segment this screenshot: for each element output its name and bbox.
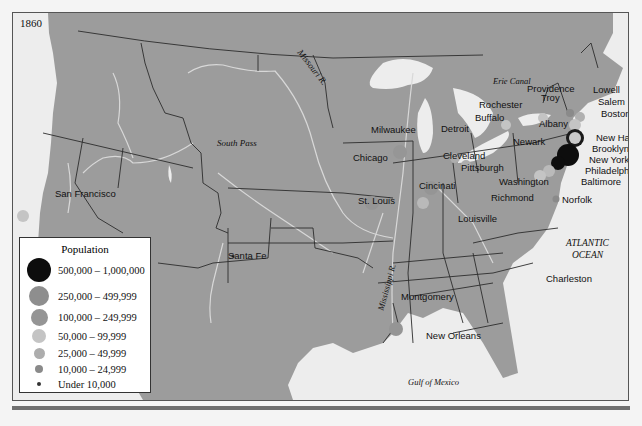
legend-row-250k-500k: 250,000 – 499,999: [20, 286, 150, 306]
legend-dot-50k-100k-icon: [32, 329, 46, 343]
erie-canal-label: Erie Canal: [493, 77, 531, 86]
city-label-new-orleans: New Orleans: [426, 331, 481, 341]
legend-label: 50,000 – 99,999: [58, 331, 126, 342]
legend-label: 10,000 – 24,999: [58, 364, 126, 375]
city-label-troy: Troy: [541, 93, 560, 103]
city-label-salem: Salem: [598, 97, 625, 107]
city-label-norfolk: Norfolk: [562, 195, 592, 205]
map-frame: 1860 Missouri R. Mississippi R. South Pa…: [12, 12, 629, 401]
legend-label: 500,000 – 1,000,000: [58, 265, 145, 276]
dot-san-francisco: [17, 210, 29, 222]
dot-norfolk: [553, 196, 560, 203]
city-label-lowell: Lowell: [593, 85, 620, 95]
city-label-milwaukee: Milwaukee: [371, 125, 416, 135]
legend-dot-25k-50k-icon: [34, 348, 45, 359]
dot-salem: [566, 109, 574, 117]
atlantic-label-line2: OCEAN: [566, 251, 609, 261]
legend-title: Population: [20, 243, 150, 255]
legend-row-under-10k: Under 10,000: [20, 377, 150, 391]
city-label-louisville: Louisville: [458, 214, 497, 224]
legend-row-100k-250k: 100,000 – 249,999: [20, 308, 150, 326]
city-label-philadelphia: Philadelphia: [585, 166, 629, 176]
city-label-brooklyn: Brooklyn: [592, 144, 629, 154]
city-label-santa-fe: Santa Fe: [228, 251, 267, 261]
legend-label: 25,000 – 49,999: [58, 348, 126, 359]
city-label-new-york: New York: [589, 155, 629, 165]
map-year: 1860: [20, 17, 42, 29]
city-label-boston: Boston: [601, 109, 629, 119]
city-label-pittsburgh: Pittsburgh: [461, 163, 504, 173]
city-label-cleveland: Cleveland: [443, 151, 485, 161]
bottom-divider: [12, 406, 630, 410]
legend-label: 100,000 – 249,999: [58, 312, 137, 323]
dot-louisville: [417, 197, 429, 209]
city-label-san-francisco: San Francisco: [55, 189, 116, 199]
city-label-cincinati: Cincinati: [419, 181, 455, 191]
gulf-of-mexico-label: Gulf of Mexico: [408, 378, 459, 387]
legend-dot-500k-1m-icon: [27, 258, 51, 282]
south-pass-label: South Pass: [217, 139, 257, 148]
legend-dot-100k-250k-icon: [31, 309, 48, 326]
legend-dot-10k-25k-icon: [35, 365, 43, 373]
city-label-baltimore: Baltimore: [581, 177, 621, 187]
city-label-albany: Albany: [539, 119, 568, 129]
city-label-st-louis: St. Louis: [358, 196, 395, 206]
dot-brooklyn: [569, 132, 581, 144]
legend-row-10k-25k: 10,000 – 24,999: [20, 362, 150, 376]
legend-row-25k-50k: 25,000 – 49,999: [20, 345, 150, 361]
city-label-rochester: Rochester: [479, 100, 522, 110]
city-label-new-haven: New Haven: [596, 133, 629, 143]
legend-row-500k-1m: 500,000 – 1,000,000: [20, 258, 150, 282]
legend-label: Under 10,000: [58, 379, 116, 390]
city-label-charleston: Charleston: [546, 274, 592, 284]
legend-dot-250k-500k-icon: [29, 286, 49, 306]
city-label-richmond: Richmond: [491, 193, 534, 203]
dot-chicago: [393, 145, 407, 159]
legend-dot-under-10k-icon: [37, 382, 41, 386]
city-label-buffalo: Buffalo: [475, 113, 504, 123]
city-label-montgomery: Montgomery: [401, 292, 454, 302]
city-label-providence: Providence: [527, 84, 575, 94]
population-legend: Population 500,000 – 1,000,000 250,000 –…: [19, 237, 151, 393]
dot-new-orleans: [389, 322, 403, 336]
city-label-newark: Newark: [513, 137, 545, 147]
legend-label: 250,000 – 499,999: [58, 291, 137, 302]
city-label-detroit: Detroit: [441, 124, 469, 134]
atlantic-ocean-label: ATLANTIC OCEAN: [566, 239, 609, 260]
legend-row-50k-100k: 50,000 – 99,999: [20, 328, 150, 344]
city-label-washington: Washington: [499, 177, 549, 187]
city-label-chicago: Chicago: [353, 153, 388, 163]
atlantic-label-line1: ATLANTIC: [566, 239, 609, 249]
